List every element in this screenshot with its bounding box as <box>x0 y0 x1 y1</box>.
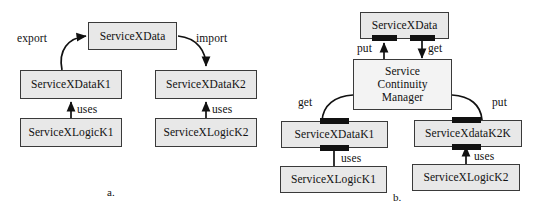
node-a-servicexdata[interactable]: ServiceXData <box>88 22 177 50</box>
port-b-datak1-top <box>320 118 349 124</box>
edge-a-export <box>61 36 86 70</box>
port-b-servicexdata-put <box>372 35 397 41</box>
panel-caption-b: b. <box>393 191 401 203</box>
edge-label-b-put-right: put <box>492 96 507 108</box>
node-a-logick1[interactable]: ServiceXLogicK1 <box>20 118 122 147</box>
node-b-datak2k[interactable]: ServiceXdataK2K <box>414 120 522 147</box>
edge-label-b-get-left: get <box>298 96 312 108</box>
node-a-datak1[interactable]: ServiceXDataK1 <box>20 70 122 99</box>
panel-caption-a: a. <box>107 186 115 198</box>
edge-label-a-uses-2: uses <box>212 103 232 115</box>
edge-label-a-import: import <box>196 32 227 44</box>
node-b-logick2[interactable]: ServiceXLogicK2 <box>412 164 520 191</box>
edge-label-b-uses-1: uses <box>341 152 361 164</box>
edge-label-a-export: export <box>17 32 47 44</box>
node-a-datak2[interactable]: ServiceXDataK2 <box>155 70 257 99</box>
port-b-servicexdata-get <box>410 35 435 41</box>
port-b-datak1-bottom <box>320 145 349 151</box>
edge-label-b-get-top: get <box>428 42 442 54</box>
port-b-datak2k-top <box>452 117 481 123</box>
edge-label-b-put-top: put <box>357 42 372 54</box>
edge-label-b-uses-2: uses <box>474 150 494 162</box>
node-b-logick1[interactable]: ServiceXLogicK1 <box>280 166 387 193</box>
node-a-logick2[interactable]: ServiceXLogicK2 <box>155 118 257 147</box>
node-b-manager[interactable]: Service Continuity Manager <box>353 59 452 110</box>
edge-label-a-uses-1: uses <box>77 103 97 115</box>
node-b-datak1[interactable]: ServiceXDataK1 <box>281 121 388 148</box>
figure-canvas: ServiceXData ServiceXDataK1 ServiceXLogi… <box>0 0 537 212</box>
